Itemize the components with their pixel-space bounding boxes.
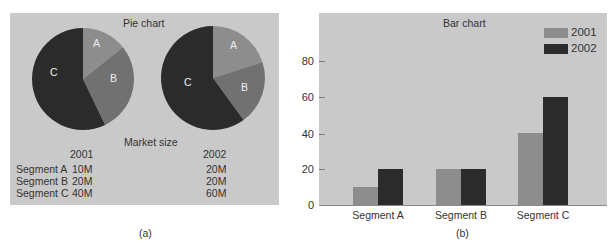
legend-swatch-2002 — [544, 44, 568, 54]
table-row-label: Segment B — [16, 175, 68, 187]
table-cell: 40M — [72, 187, 92, 199]
bar-2002-segment-b — [461, 169, 486, 205]
bar-2001-segment-a — [353, 187, 378, 205]
legend-label-2002: 2002 — [571, 42, 597, 54]
y-tick-60: 60 — [292, 91, 314, 103]
pie-2001-label-c: C — [50, 66, 58, 78]
y-tick-80: 80 — [292, 55, 314, 67]
caption-a: (a) — [139, 227, 152, 239]
y-tick-mark — [319, 97, 325, 98]
y-tick-mark — [319, 61, 325, 62]
table-cell: 20M — [206, 175, 226, 187]
table-header-2001: 2001 — [70, 148, 93, 160]
y-tick-mark — [319, 134, 325, 135]
bar-2002-segment-a — [378, 169, 403, 205]
caption-b: (b) — [456, 227, 469, 239]
x-category-segment-b: Segment B — [421, 209, 501, 221]
table-cell: 10M — [72, 163, 92, 175]
legend-label-2001: 2001 — [571, 26, 597, 38]
pie-2002-label-c: C — [184, 76, 192, 88]
table-cell: 20M — [72, 175, 92, 187]
bar-2002-segment-c — [543, 97, 568, 205]
x-category-segment-a: Segment A — [338, 209, 418, 221]
y-tick-20: 20 — [292, 163, 314, 175]
pie-chart-title: Pie chart — [123, 17, 164, 29]
y-tick-0: 0 — [292, 199, 314, 211]
table-row-label: Segment C — [16, 187, 69, 199]
bar-2001-segment-b — [436, 169, 461, 205]
table-row-label: Segment A — [16, 163, 67, 175]
legend-swatch-2001 — [544, 28, 568, 38]
x-axis-line — [319, 205, 607, 206]
table-header-2002: 2002 — [203, 148, 226, 160]
x-category-segment-c: Segment C — [503, 209, 583, 221]
bar-chart-title: Bar chart — [443, 17, 486, 29]
pie-2001-label-b: B — [110, 72, 117, 84]
pie-2001-label-a: A — [93, 37, 100, 49]
pie-2002-label-a: A — [230, 39, 237, 51]
table-cell: 20M — [206, 163, 226, 175]
table-cell: 60M — [206, 187, 226, 199]
bar-2001-segment-c — [518, 133, 543, 205]
y-tick-40: 40 — [292, 128, 314, 140]
pie-2002-label-b: B — [241, 81, 248, 93]
y-tick-mark — [319, 169, 325, 170]
market-size-title: Market size — [124, 136, 178, 148]
